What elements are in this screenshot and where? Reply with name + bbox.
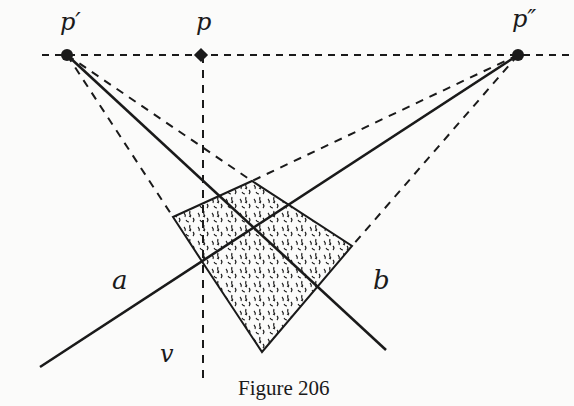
perspective-diagram xyxy=(0,0,574,406)
figure-caption: Figure 206 xyxy=(238,376,330,401)
label-b: b xyxy=(373,265,390,295)
stippled-plane xyxy=(173,181,352,352)
label-a: a xyxy=(112,265,128,295)
projection-line xyxy=(352,55,518,246)
label-p-prime: p′ xyxy=(60,8,81,36)
projection-line xyxy=(252,55,518,181)
point-p xyxy=(194,48,208,62)
line-b xyxy=(67,55,386,350)
label-v: v xyxy=(160,340,174,368)
point-p-double-prime xyxy=(512,49,524,61)
projection-line xyxy=(67,55,252,181)
point-p-prime xyxy=(61,49,73,61)
label-p-double-prime: p″ xyxy=(512,5,536,33)
projection-line xyxy=(67,55,173,217)
figure-206: p′ p p″ a b v Figure 206 xyxy=(0,0,574,406)
label-p: p xyxy=(196,8,211,36)
